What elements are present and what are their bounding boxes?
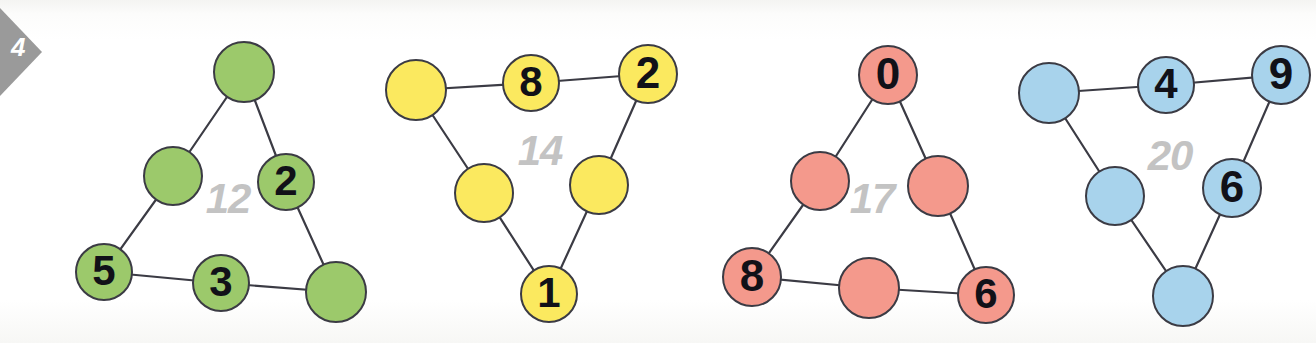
blue-triangle-node-top-right[interactable]: 9 [1251, 45, 1311, 105]
blue-triangle-node-mid-right[interactable]: 6 [1202, 158, 1262, 218]
blue-triangle-node-top-mid[interactable]: 4 [1137, 56, 1195, 114]
blue-triangle-node-bottom[interactable] [1152, 265, 1214, 327]
blue-triangle-node-top-left[interactable] [1018, 62, 1080, 124]
node-value-label: 9 [1269, 52, 1293, 96]
blue-triangle-node-mid-left[interactable] [1085, 166, 1145, 226]
node-value-label: 6 [1220, 165, 1244, 209]
puzzle-sum-label: 20 [1136, 135, 1204, 177]
node-value-label: 4 [1154, 63, 1177, 105]
puzzle-blue-triangle: 20496 [0, 0, 1316, 343]
worksheet-page: 4 12253148211708620496 [0, 0, 1316, 343]
